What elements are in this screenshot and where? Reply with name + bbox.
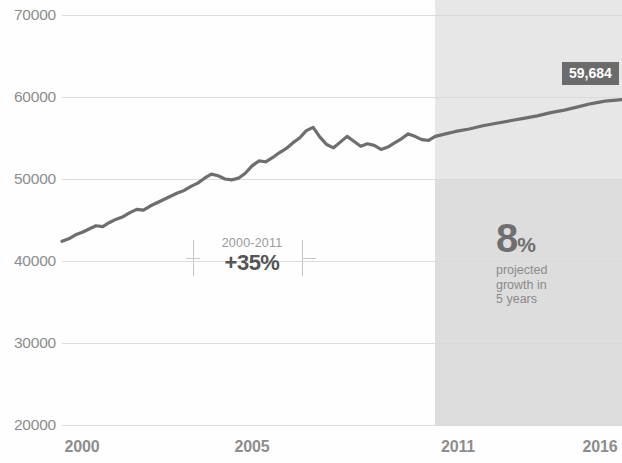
x-axis-label-2011: 2011: [441, 438, 475, 456]
y-axis-label-30000: 30000: [0, 334, 56, 352]
growth-percent-label: +35%: [196, 251, 308, 275]
y-axis-label-70000: 70000: [0, 6, 56, 24]
projection-caption-line-1: projected: [496, 263, 606, 278]
plot-area: [62, 0, 622, 426]
series-line: [62, 0, 622, 426]
projection-caption: projected growth in 5 years: [496, 263, 606, 307]
projection-percent-sign: %: [517, 233, 535, 256]
projection-headline: 8%: [496, 218, 606, 258]
projection-number: 8: [496, 216, 517, 260]
end-value-badge: 59,684: [562, 62, 619, 85]
y-axis-label-40000: 40000: [0, 252, 56, 270]
projection-caption-line-3: 5 years: [496, 292, 606, 307]
projection-caption-line-2: growth in: [496, 278, 606, 293]
y-axis-label-50000: 50000: [0, 170, 56, 188]
growth-range-label: 2000-2011: [196, 236, 308, 251]
x-axis-label-2000: 2000: [65, 438, 100, 456]
projection-callout: 8% projected growth in 5 years: [496, 218, 606, 307]
x-axis-label-2016: 2016: [583, 438, 618, 456]
growth-annotation: 2000-2011 +35%: [196, 236, 308, 275]
x-axis-label-2005: 2005: [235, 438, 270, 456]
y-axis-label-20000: 20000: [0, 416, 56, 434]
line-chart: 70000 60000 50000 40000 30000 20000 2000…: [0, 0, 622, 463]
y-axis-label-60000: 60000: [0, 88, 56, 106]
